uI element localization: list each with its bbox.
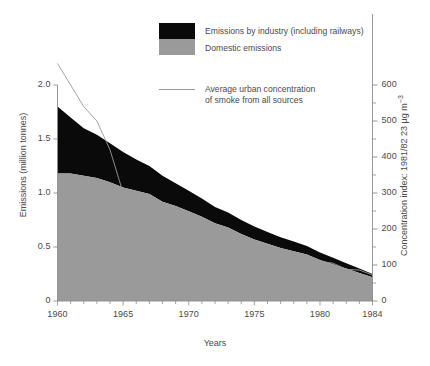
stacked-areas: [58, 107, 373, 301]
y-tick-label-right: 600: [382, 79, 397, 89]
x-tick-label: 1965: [103, 309, 143, 319]
y-axis-right-title: Concentration index: 1981/82 23 µg m−3: [397, 116, 409, 256]
legend-swatch-domestic: [159, 39, 195, 55]
y-tick-label-right: 300: [382, 187, 397, 197]
x-tick-label: 1960: [38, 309, 78, 319]
y-axis-right-title-text: Concentration index: 1981/82 23 µg m: [399, 103, 409, 256]
legend-swatch-industry: [159, 23, 195, 39]
legend-label-industry: Emissions by industry (including railway…: [205, 26, 364, 37]
x-tick-label: 1970: [169, 309, 209, 319]
legend-line-sample: [159, 89, 195, 90]
y-tick-label-left: 2.0: [0, 79, 51, 89]
y-tick-label-left: 0: [0, 295, 51, 305]
x-tick-label: 1984: [353, 309, 393, 319]
legend-label-concentration-line1: Average urban concentration: [205, 84, 315, 95]
y-tick-label-left: 1.0: [0, 187, 51, 197]
y-tick-label-right: 400: [382, 151, 397, 161]
legend-label-concentration-line2: of smoke from all sources: [205, 95, 303, 106]
y-axis-left-title: Emissions (million tonnes): [18, 95, 28, 235]
y-tick-label-left: 1.5: [0, 133, 51, 143]
y-tick-label-right: 0: [382, 295, 387, 305]
y-tick-label-right: 100: [382, 259, 397, 269]
area-domestic: [58, 174, 373, 301]
y-tick-label-left: 0.5: [0, 241, 51, 251]
legend-label-domestic: Domestic emissions: [205, 43, 281, 54]
y-tick-label-right: 500: [382, 115, 397, 125]
chart-figure: Emissions (million tonnes) Concentration…: [0, 0, 430, 366]
y-axis-right-title-exponent: −3: [397, 95, 404, 103]
x-tick-label: 1975: [234, 309, 274, 319]
x-axis-title: Years: [0, 338, 430, 348]
y-tick-label-right: 200: [382, 223, 397, 233]
x-tick-label: 1980: [300, 309, 340, 319]
